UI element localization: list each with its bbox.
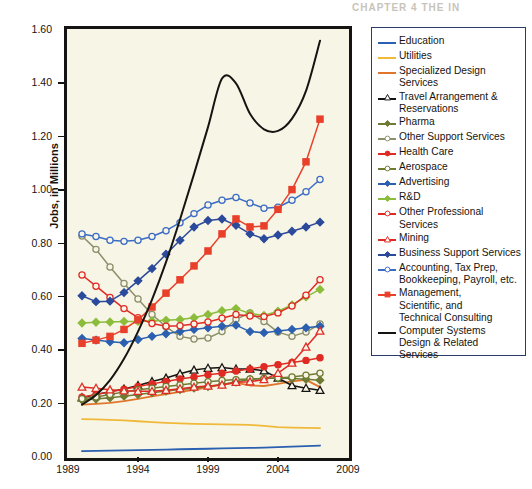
series-utilities bbox=[82, 419, 320, 428]
x-tick-mark bbox=[207, 457, 209, 462]
plot-area bbox=[68, 30, 348, 457]
x-tick-mark bbox=[137, 457, 139, 462]
legend-swatch-icon bbox=[376, 162, 398, 175]
x-tick-label: 1999 bbox=[185, 463, 231, 475]
x-tick-label: 2004 bbox=[255, 463, 301, 475]
legend-item-label: Health Care bbox=[398, 146, 453, 158]
legend-swatch-icon bbox=[376, 207, 398, 220]
legend-item[interactable]: Accounting, Tax Prep, Bookkeeping, Payro… bbox=[376, 262, 521, 286]
legend-swatch-icon bbox=[376, 36, 398, 49]
chart-legend: EducationUtilitiesSpecialized Design Ser… bbox=[371, 27, 526, 356]
y-tick-label: 0.20 bbox=[14, 397, 52, 409]
legend-item-label: R&D bbox=[398, 191, 421, 203]
y-tick-label: 1.00 bbox=[14, 183, 52, 195]
legend-item-label: Advertising bbox=[398, 176, 449, 188]
legend-swatch-icon bbox=[376, 288, 398, 301]
series-computer-systems-design-related-services bbox=[82, 41, 320, 405]
legend-item-label: Computer SystemsDesign & RelatedServices bbox=[398, 325, 486, 362]
chart-page: CHAPTER 4 THE IN WITH TACTICS AS INNOVAT… bbox=[0, 0, 532, 489]
legend-swatch-icon bbox=[376, 147, 398, 160]
legend-item-label: Specialized Design Services bbox=[398, 65, 521, 90]
legend-swatch-icon bbox=[376, 326, 398, 339]
legend-item-label: Management,Scientific, andTechnical Cons… bbox=[398, 287, 492, 324]
legend-swatch-icon bbox=[376, 177, 398, 190]
legend-item-label: Education bbox=[398, 35, 444, 47]
legend-item-label: Business Support Services bbox=[398, 247, 521, 259]
y-tick-label: 0.80 bbox=[14, 237, 52, 249]
x-tick-label: 1989 bbox=[45, 463, 91, 475]
legend-item[interactable]: Education bbox=[376, 35, 521, 49]
legend-item[interactable]: Travel Arrangement &Reservations bbox=[376, 91, 521, 115]
legend-item[interactable]: Computer SystemsDesign & RelatedServices bbox=[376, 325, 521, 362]
y-tick-label: 1.60 bbox=[14, 23, 52, 35]
legend-swatch-icon bbox=[376, 248, 398, 261]
series-specialized-design-services bbox=[82, 380, 320, 405]
legend-item[interactable]: Management,Scientific, andTechnical Cons… bbox=[376, 287, 521, 324]
legend-item[interactable]: Utilities bbox=[376, 50, 521, 64]
legend-item-label: Other Support Services bbox=[398, 131, 505, 143]
legend-item[interactable]: Advertising bbox=[376, 176, 521, 190]
legend-item[interactable]: Aerospace bbox=[376, 161, 521, 175]
legend-item[interactable]: Other Support Services bbox=[376, 131, 521, 145]
legend-swatch-icon bbox=[376, 92, 398, 105]
legend-item[interactable]: Pharma bbox=[376, 116, 521, 130]
series-business-support-services bbox=[78, 215, 324, 305]
series-other-professional-services bbox=[79, 272, 323, 329]
legend-swatch-icon bbox=[376, 192, 398, 205]
series-other-support-services bbox=[79, 233, 323, 342]
series-education bbox=[82, 446, 320, 452]
series-r-d bbox=[78, 286, 324, 327]
legend-swatch-icon bbox=[376, 132, 398, 145]
legend-item[interactable]: Health Care bbox=[376, 146, 521, 160]
legend-swatch-icon bbox=[376, 233, 398, 246]
legend-item[interactable]: Specialized Design Services bbox=[376, 65, 521, 90]
legend-item-label: Aerospace bbox=[398, 161, 448, 173]
y-tick-label: 0.60 bbox=[14, 290, 52, 302]
legend-item-label: Accounting, Tax Prep, Bookkeeping, Payro… bbox=[398, 262, 517, 286]
legend-item-label: Travel Arrangement &Reservations bbox=[398, 91, 498, 115]
x-tick-mark bbox=[277, 457, 279, 462]
legend-swatch-icon bbox=[376, 117, 398, 130]
page-header: CHAPTER 4 THE IN bbox=[352, 2, 527, 16]
x-tick-label: 2009 bbox=[325, 463, 371, 475]
series-accounting-tax-prep-bookkeeping-payroll-etc bbox=[79, 176, 323, 244]
y-tick-label: 0.00 bbox=[14, 450, 52, 462]
legend-item-label: Pharma bbox=[398, 116, 435, 128]
chart-svg bbox=[68, 30, 348, 457]
legend-swatch-icon bbox=[376, 263, 398, 276]
y-tick-label: 0.40 bbox=[14, 343, 52, 355]
legend-swatch-icon bbox=[376, 51, 398, 64]
legend-item[interactable]: Other Professional Services bbox=[376, 206, 521, 231]
y-tick-label: 1.20 bbox=[14, 130, 52, 142]
y-tick-label: 1.40 bbox=[14, 76, 52, 88]
legend-item[interactable]: R&D bbox=[376, 191, 521, 205]
legend-item[interactable]: Mining bbox=[376, 232, 521, 246]
legend-item-label: Other Professional Services bbox=[398, 206, 521, 231]
legend-item-label: Utilities bbox=[398, 50, 432, 62]
legend-item-label: Mining bbox=[398, 232, 429, 244]
series-mining bbox=[78, 327, 324, 394]
x-tick-label: 1994 bbox=[115, 463, 161, 475]
legend-item[interactable]: Business Support Services bbox=[376, 247, 521, 261]
legend-swatch-icon bbox=[376, 66, 398, 79]
